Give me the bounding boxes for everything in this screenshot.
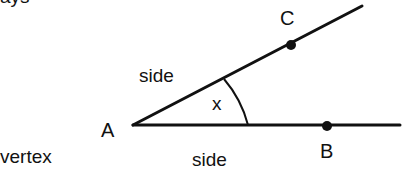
point-c-dot	[286, 40, 296, 50]
point-b-dot	[322, 121, 332, 131]
label-vertex-caption: vertex	[0, 147, 52, 166]
label-a: A	[101, 120, 114, 140]
label-side-lower: side	[192, 150, 227, 169]
label-side-upper: side	[139, 66, 174, 85]
angle-diagram: ays C B A x side side vertex	[0, 0, 402, 175]
label-b: B	[320, 141, 333, 161]
angle-arc	[224, 79, 248, 125]
label-angle-x: x	[212, 94, 222, 113]
label-c: C	[280, 8, 294, 28]
